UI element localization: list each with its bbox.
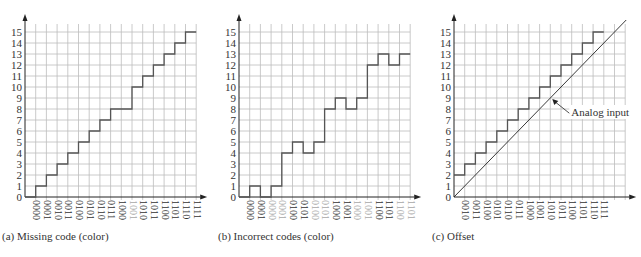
- y-tick-label: 11: [440, 70, 451, 82]
- y-tick-label: 1: [17, 180, 23, 192]
- x-tick-label: 1111: [599, 200, 610, 219]
- y-tick-label: 10: [440, 81, 452, 93]
- y-tick-label: 5: [17, 136, 23, 148]
- y-tick-label: 12: [11, 59, 22, 71]
- y-tick-label: 4: [231, 147, 237, 159]
- x-tick-label: 1000: [352, 200, 363, 220]
- y-tick-label: 9: [446, 92, 452, 104]
- y-tick-label: 13: [440, 48, 452, 60]
- y-tick-label: 6: [231, 125, 237, 137]
- y-tick-label: 15: [225, 26, 237, 38]
- y-tick-label: 2: [231, 169, 237, 181]
- x-tick-label: 1110: [589, 200, 600, 219]
- y-tick-label: 1: [446, 180, 452, 192]
- x-tick-label: 1100: [395, 200, 406, 220]
- caption-b: (b) Incorrect codes (color): [218, 230, 334, 242]
- figure: 0123456789101112131415000000010010001101…: [0, 0, 641, 257]
- x-tick-label: 0111: [106, 200, 117, 219]
- y-tick-label: 14: [11, 37, 23, 49]
- y-tick-label: 5: [446, 136, 452, 148]
- y-tick-label: 4: [17, 147, 23, 159]
- x-tick-label: 0110: [96, 200, 107, 220]
- x-tick-label: 0011: [63, 200, 74, 220]
- x-tick-label: 1101: [578, 200, 589, 220]
- x-tick-label: 0010: [53, 200, 64, 220]
- y-tick-label: 2: [446, 169, 452, 181]
- y-tick-label: 10: [225, 81, 237, 93]
- x-tick-label: 0110: [503, 200, 514, 220]
- y-tick-label: 6: [446, 125, 452, 137]
- chart-a: 0123456789101112131415000000010010001101…: [11, 14, 207, 220]
- y-tick-label: 8: [446, 103, 452, 115]
- y-tick-label: 7: [446, 114, 452, 126]
- x-tick-label: 1001: [535, 200, 546, 220]
- x-tick-label: 0001: [256, 200, 267, 220]
- x-tick-label: 1100: [160, 200, 171, 220]
- x-tick-label: 0011: [471, 200, 482, 220]
- y-tick-label: 12: [440, 59, 451, 71]
- y-tick-label: 14: [440, 37, 452, 49]
- chart-c: 0123456789101112131415001000110100010101…: [440, 14, 636, 220]
- y-tick-label: 15: [11, 26, 23, 38]
- x-tick-label: 0100: [288, 200, 299, 220]
- y-tick-label: 3: [446, 158, 452, 170]
- x-tick-label: 0101: [492, 200, 503, 220]
- caption-c: (c) Offset: [432, 230, 474, 242]
- analog-input-label: Analog input: [571, 106, 629, 118]
- x-tick-label: 1010: [138, 200, 149, 220]
- chart-b: 0123456789101112131415000000010000000101…: [225, 14, 421, 220]
- x-tick-label: 1110: [181, 200, 192, 219]
- y-tick-label: 12: [225, 59, 236, 71]
- x-tick-label: 1001: [342, 200, 353, 220]
- caption-a: (a) Missing code (color): [2, 230, 109, 242]
- x-tick-label: 1100: [374, 200, 385, 220]
- x-tick-label: 0000: [245, 200, 256, 220]
- y-tick-label: 11: [11, 70, 22, 82]
- x-tick-label: 0101: [85, 200, 96, 220]
- y-tick-label: 3: [17, 158, 23, 170]
- x-tick-label: 1010: [546, 200, 557, 220]
- y-tick-label: 13: [225, 48, 237, 60]
- x-tick-label: 1000: [331, 200, 342, 220]
- y-tick-label: 1: [231, 180, 237, 192]
- y-tick-label: 0: [17, 191, 23, 203]
- y-tick-label: 9: [17, 92, 23, 104]
- x-tick-label: 0111: [514, 200, 525, 219]
- x-tick-label: 0100: [310, 200, 321, 220]
- y-tick-label: 14: [225, 37, 237, 49]
- x-tick-label: 0101: [299, 200, 310, 220]
- x-tick-label: 0000: [31, 200, 42, 220]
- y-tick-label: 9: [231, 92, 237, 104]
- y-tick-label: 3: [231, 158, 237, 170]
- x-tick-label: 1011: [149, 200, 160, 220]
- y-tick-label: 2: [17, 169, 23, 181]
- x-tick-label: 1101: [384, 200, 395, 220]
- x-tick-label: 0000: [267, 200, 278, 220]
- x-tick-label: 1001: [128, 200, 139, 220]
- y-tick-label: 0: [231, 191, 237, 203]
- x-tick-label: 0101: [320, 200, 331, 220]
- y-tick-label: 8: [231, 103, 237, 115]
- y-tick-label: 4: [446, 147, 452, 159]
- x-tick-label: 1111: [192, 200, 203, 219]
- y-tick-label: 7: [17, 114, 23, 126]
- x-tick-label: 0001: [277, 200, 288, 220]
- x-tick-label: 0010: [460, 200, 471, 220]
- y-tick-label: 5: [231, 136, 237, 148]
- x-tick-label: 0100: [74, 200, 85, 220]
- y-tick-label: 13: [11, 48, 23, 60]
- x-tick-label: 0001: [42, 200, 53, 220]
- x-tick-label: 1001: [363, 200, 374, 220]
- x-tick-label: 1101: [406, 200, 417, 220]
- y-tick-label: 0: [446, 191, 452, 203]
- y-tick-label: 8: [17, 103, 23, 115]
- x-tick-label: 1101: [170, 200, 181, 220]
- y-tick-label: 10: [11, 81, 23, 93]
- y-tick-label: 7: [231, 114, 237, 126]
- y-tick-label: 15: [440, 26, 452, 38]
- x-tick-label: 1000: [117, 200, 128, 220]
- x-tick-label: 1011: [557, 200, 568, 220]
- y-tick-label: 11: [225, 70, 236, 82]
- x-tick-label: 1000: [525, 200, 536, 220]
- y-tick-label: 6: [17, 125, 23, 137]
